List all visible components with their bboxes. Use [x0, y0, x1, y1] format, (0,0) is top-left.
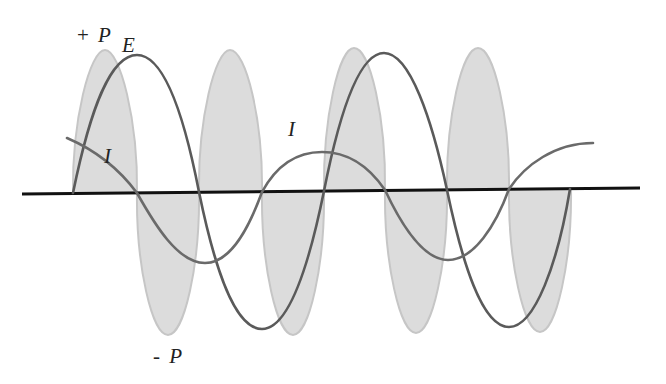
label-voltage-e: E	[121, 33, 135, 57]
label-negative-power-symbol: P	[168, 344, 182, 368]
label-negative-power-sign: -	[153, 344, 160, 368]
power-lobe-negative-3	[385, 190, 447, 333]
label-current-i-1: I	[103, 144, 112, 168]
power-lobe-negative-1	[137, 192, 199, 335]
label-positive-power: + P	[77, 23, 111, 47]
label-negative-power: - P	[153, 344, 182, 368]
power-lobe-positive-4	[447, 48, 509, 190]
power-lobe-positive-3	[324, 48, 385, 191]
power-lobe-negative-4	[509, 189, 571, 332]
power-waveform-diagram: + P E I I - P	[0, 0, 666, 384]
label-positive-power-sign: +	[77, 23, 89, 47]
power-lobe-positive-1	[73, 50, 137, 193]
power-lobe-negative-2	[262, 191, 324, 335]
power-lobe-positive-2	[199, 50, 262, 192]
label-positive-power-symbol: P	[97, 23, 111, 47]
label-current-i-2: I	[287, 117, 296, 141]
